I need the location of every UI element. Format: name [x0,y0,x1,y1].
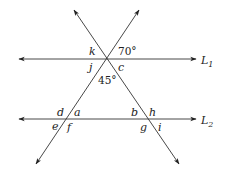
angle-label-c: c [118,61,124,74]
transversal-left [36,10,139,164]
angle-label-k: k [89,45,96,58]
angle-label-d: d [57,106,64,119]
angle-label-g: g [140,121,147,134]
angle-label-a: a [74,106,81,119]
transversal-right [74,10,179,164]
angle-diagram: L1 L2 k 70° j c 45° d a e f b h g i [0,0,227,176]
angle-given-70: 70° [118,45,137,57]
angle-label-h: h [149,106,156,119]
angle-label-b: b [131,106,138,119]
angle-label-j: j [86,61,93,74]
label-l2: L2 [200,114,213,129]
label-l1: L1 [200,54,213,69]
angle-given-45: 45° [98,74,117,86]
angle-label-f: f [66,121,73,134]
angle-label-e: e [52,120,59,133]
angle-label-i: i [158,121,162,134]
